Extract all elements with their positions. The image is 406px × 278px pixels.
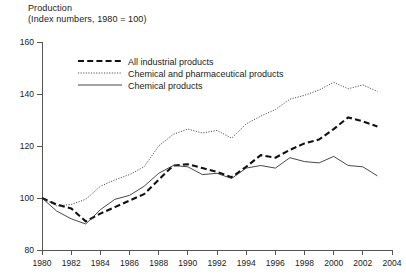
y-tick-label: 120 <box>20 141 34 151</box>
y-tick-label: 160 <box>20 37 34 47</box>
x-tick-label: 1980 <box>33 258 52 268</box>
x-tick-label: 1996 <box>266 258 285 268</box>
series-line-chemical <box>42 156 377 224</box>
x-tick-label: 2000 <box>324 258 343 268</box>
x-tick-label: 1984 <box>91 258 110 268</box>
plot-area: 8010012014016019801982198419861988199019… <box>0 0 406 278</box>
legend-label-3: Chemical products <box>128 81 203 91</box>
x-tick-label: 1988 <box>149 258 168 268</box>
legend-group: All industrial productsChemical and phar… <box>78 57 284 91</box>
x-tick-label: 2002 <box>353 258 372 268</box>
series-group <box>42 82 377 224</box>
production-index-chart: Production (Index numbers, 1980 = 100) 8… <box>0 0 406 278</box>
series-line-all-industrial <box>42 117 377 221</box>
y-tick-label: 100 <box>20 193 34 203</box>
x-tick-label: 1994 <box>237 258 256 268</box>
y-tick-label: 140 <box>20 89 34 99</box>
x-tick-label: 1982 <box>62 258 81 268</box>
y-tick-label: 80 <box>25 245 35 255</box>
legend-label-1: All industrial products <box>128 57 214 67</box>
series-line-chemical-pharmaceutical <box>42 82 377 206</box>
x-tick-label: 1990 <box>178 258 197 268</box>
x-tick-label: 1992 <box>208 258 227 268</box>
x-tick-label: 1998 <box>295 258 314 268</box>
legend-label-2: Chemical and pharmaceutical products <box>128 69 284 79</box>
x-tick-label: 1986 <box>120 258 139 268</box>
x-tick-label: 2004 <box>383 258 402 268</box>
